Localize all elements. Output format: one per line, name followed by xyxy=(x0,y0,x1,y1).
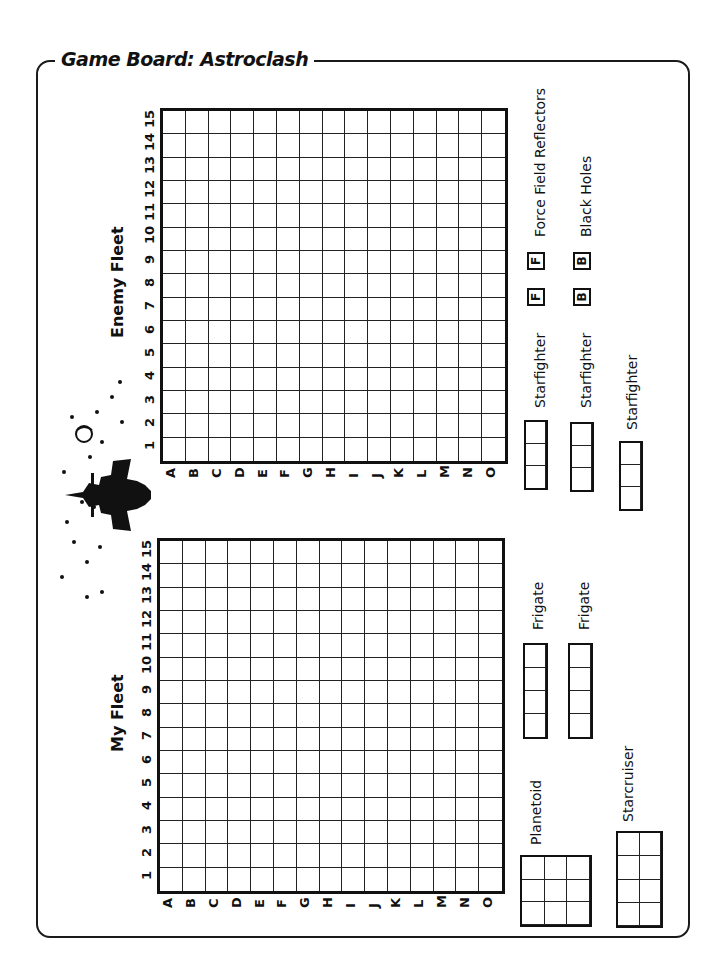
grid-cell[interactable] xyxy=(323,344,346,367)
grid-cell[interactable] xyxy=(391,134,414,157)
grid-cell[interactable] xyxy=(300,228,323,251)
grid-cell[interactable] xyxy=(320,634,343,657)
grid-cell[interactable] xyxy=(345,321,368,344)
grid-cell[interactable] xyxy=(368,321,391,344)
grid-cell[interactable] xyxy=(437,204,460,227)
grid-cell[interactable] xyxy=(365,658,388,681)
grid-cell[interactable] xyxy=(434,821,457,844)
grid-cell[interactable] xyxy=(183,681,206,704)
enemy-fleet-grid[interactable] xyxy=(160,108,508,464)
grid-cell[interactable] xyxy=(365,751,388,774)
grid-cell[interactable] xyxy=(482,181,505,204)
grid-cell[interactable] xyxy=(228,774,251,797)
grid-cell[interactable] xyxy=(459,414,482,437)
grid-cell[interactable] xyxy=(206,704,229,727)
grid-cell[interactable] xyxy=(479,588,502,611)
grid-cell[interactable] xyxy=(297,658,320,681)
grid-cell[interactable] xyxy=(160,844,183,867)
grid-cell[interactable] xyxy=(254,414,277,437)
grid-cell[interactable] xyxy=(231,181,254,204)
grid-cell[interactable] xyxy=(277,344,300,367)
grid-cell[interactable] xyxy=(437,274,460,297)
grid-cell[interactable] xyxy=(323,204,346,227)
grid-cell[interactable] xyxy=(206,588,229,611)
grid-cell[interactable] xyxy=(300,181,323,204)
grid-cell[interactable] xyxy=(231,321,254,344)
grid-cell[interactable] xyxy=(456,704,479,727)
grid-cell[interactable] xyxy=(365,868,388,891)
grid-cell[interactable] xyxy=(391,228,414,251)
black-hole-token-1[interactable]: B xyxy=(573,288,591,306)
grid-cell[interactable] xyxy=(160,774,183,797)
grid-cell[interactable] xyxy=(482,298,505,321)
grid-cell[interactable] xyxy=(163,111,186,134)
grid-cell[interactable] xyxy=(482,438,505,461)
grid-cell[interactable] xyxy=(231,134,254,157)
my-fleet-grid[interactable] xyxy=(157,538,505,894)
grid-cell[interactable] xyxy=(411,798,434,821)
grid-cell[interactable] xyxy=(414,251,437,274)
grid-cell[interactable] xyxy=(209,228,232,251)
grid-cell[interactable] xyxy=(482,321,505,344)
grid-cell[interactable] xyxy=(391,391,414,414)
grid-cell[interactable] xyxy=(479,681,502,704)
grid-cell[interactable] xyxy=(206,798,229,821)
grid-cell[interactable] xyxy=(342,774,365,797)
grid-cell[interactable] xyxy=(391,181,414,204)
grid-cell[interactable] xyxy=(297,751,320,774)
grid-cell[interactable] xyxy=(183,634,206,657)
frigate-2-slot[interactable] xyxy=(568,643,593,739)
grid-cell[interactable] xyxy=(163,321,186,344)
grid-cell[interactable] xyxy=(368,344,391,367)
grid-cell[interactable] xyxy=(414,228,437,251)
grid-cell[interactable] xyxy=(254,134,277,157)
grid-cell[interactable] xyxy=(365,844,388,867)
grid-cell[interactable] xyxy=(274,681,297,704)
grid-cell[interactable] xyxy=(456,728,479,751)
grid-cell[interactable] xyxy=(274,564,297,587)
grid-cell[interactable] xyxy=(391,158,414,181)
grid-cell[interactable] xyxy=(414,134,437,157)
grid-cell[interactable] xyxy=(254,251,277,274)
grid-cell[interactable] xyxy=(297,728,320,751)
grid-cell[interactable] xyxy=(206,821,229,844)
grid-cell[interactable] xyxy=(414,438,437,461)
grid-cell[interactable] xyxy=(459,181,482,204)
grid-cell[interactable] xyxy=(388,798,411,821)
grid-cell[interactable] xyxy=(251,868,274,891)
grid-cell[interactable] xyxy=(479,821,502,844)
grid-cell[interactable] xyxy=(186,158,209,181)
grid-cell[interactable] xyxy=(388,611,411,634)
grid-cell[interactable] xyxy=(251,798,274,821)
grid-cell[interactable] xyxy=(342,588,365,611)
grid-cell[interactable] xyxy=(231,251,254,274)
grid-cell[interactable] xyxy=(300,158,323,181)
grid-cell[interactable] xyxy=(183,541,206,564)
grid-cell[interactable] xyxy=(320,564,343,587)
grid-cell[interactable] xyxy=(228,868,251,891)
grid-cell[interactable] xyxy=(434,681,457,704)
grid-cell[interactable] xyxy=(206,541,229,564)
grid-cell[interactable] xyxy=(183,868,206,891)
grid-cell[interactable] xyxy=(274,541,297,564)
grid-cell[interactable] xyxy=(297,564,320,587)
grid-cell[interactable] xyxy=(437,134,460,157)
grid-cell[interactable] xyxy=(251,541,274,564)
grid-cell[interactable] xyxy=(320,541,343,564)
grid-cell[interactable] xyxy=(368,181,391,204)
grid-cell[interactable] xyxy=(391,368,414,391)
grid-cell[interactable] xyxy=(300,438,323,461)
grid-cell[interactable] xyxy=(209,368,232,391)
grid-cell[interactable] xyxy=(434,658,457,681)
grid-cell[interactable] xyxy=(479,704,502,727)
grid-cell[interactable] xyxy=(434,774,457,797)
grid-cell[interactable] xyxy=(274,611,297,634)
grid-cell[interactable] xyxy=(297,868,320,891)
grid-cell[interactable] xyxy=(163,414,186,437)
grid-cell[interactable] xyxy=(163,344,186,367)
grid-cell[interactable] xyxy=(482,344,505,367)
grid-cell[interactable] xyxy=(323,298,346,321)
grid-cell[interactable] xyxy=(231,204,254,227)
grid-cell[interactable] xyxy=(254,344,277,367)
grid-cell[interactable] xyxy=(434,588,457,611)
